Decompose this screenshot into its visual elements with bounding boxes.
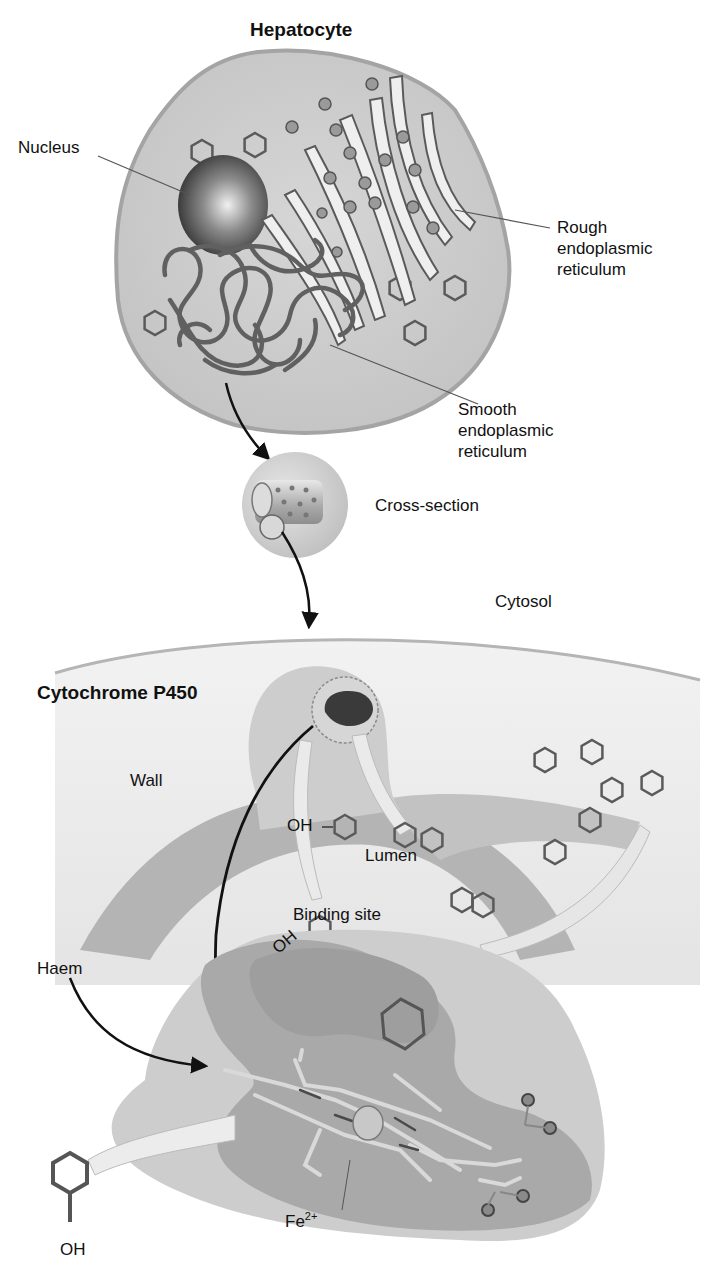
label-haem: Haem — [37, 958, 82, 979]
label-rough-er-line1: Rough — [557, 217, 652, 238]
label-fe-base: Fe — [285, 1212, 305, 1231]
label-oh-upper: OH — [287, 815, 313, 836]
label-binding-site: Binding site — [293, 904, 381, 925]
diagram-canvas — [0, 0, 706, 1280]
label-oh-bottom: OH — [60, 1239, 86, 1260]
label-rough-er-line3: reticulum — [557, 259, 652, 280]
label-cytosol: Cytosol — [495, 591, 552, 612]
label-smooth-er-line1: Smooth — [458, 399, 553, 420]
label-smooth-er-line3: reticulum — [458, 441, 553, 462]
label-cytochrome-p450: Cytochrome P450 — [37, 682, 198, 703]
label-smooth-er-line2: endoplasmic — [458, 420, 553, 441]
label-rough-er-line2: endoplasmic — [557, 238, 652, 259]
label-nucleus: Nucleus — [18, 137, 79, 158]
label-rough-er: Rough endoplasmic reticulum — [557, 217, 652, 280]
cross-section-icon — [242, 452, 348, 558]
label-fe2plus: Fe2+ — [285, 1206, 317, 1232]
label-lumen: Lumen — [365, 845, 417, 866]
label-cross-section: Cross-section — [375, 495, 479, 516]
hepatocyte-cytochrome-p450-diagram: Hepatocyte Nucleus Rough endoplasmic ret… — [0, 0, 706, 1280]
hydroxylated-product-icon — [53, 1153, 87, 1222]
label-smooth-er: Smooth endoplasmic reticulum — [458, 399, 553, 462]
label-wall: Wall — [130, 770, 162, 791]
iron-atom-icon — [353, 1106, 383, 1140]
label-fe-charge: 2+ — [305, 1210, 318, 1222]
figure-title: Hepatocyte — [250, 19, 352, 40]
nucleus-icon — [178, 155, 268, 255]
